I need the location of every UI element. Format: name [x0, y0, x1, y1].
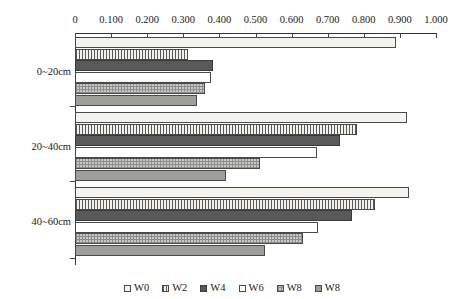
y-category-label-2: 40~60cm	[31, 216, 71, 228]
x-tick-mark-2	[147, 33, 148, 38]
legend-swatch-icon-3	[239, 285, 246, 292]
legend-label-4: W8	[287, 282, 302, 294]
bar-series-container	[75, 33, 436, 265]
bar-W0-0~20cm	[75, 37, 396, 48]
bar-W6-20~40cm	[75, 147, 317, 158]
x-tick-label-1: 0.100	[99, 14, 123, 26]
x-tick-mark-0	[75, 33, 76, 38]
x-tick-mark-6	[292, 33, 293, 38]
bar-W2-0~20cm	[75, 49, 188, 60]
x-tick-mark-4	[219, 33, 220, 38]
x-tick-mark-8	[364, 33, 365, 38]
category-separator-2	[70, 181, 76, 182]
y-category-label-0: 0~20cm	[37, 66, 71, 78]
category-separator-end	[70, 258, 76, 259]
legend-label-0: W0	[134, 282, 149, 294]
legend-item-1[interactable]: W2	[162, 282, 187, 294]
bar-W0-40~60cm	[75, 187, 409, 198]
bar-W6-40~60cm	[75, 222, 318, 233]
x-tick-label-5: 0.500	[244, 14, 268, 26]
x-tick-mark-10	[436, 33, 437, 38]
legend-item-2[interactable]: W4	[200, 282, 225, 294]
x-tick-label-10: 1.000	[424, 14, 448, 26]
legend-item-4[interactable]: W8	[277, 282, 302, 294]
legend-swatch-icon-5	[315, 285, 322, 292]
bar-W8-0~20cm	[75, 95, 197, 106]
y-axis-category-labels: 0~20cm20~40cm40~60cm	[0, 33, 71, 265]
legend-swatch-icon-1	[162, 285, 169, 292]
x-tick-mark-7	[328, 33, 329, 38]
bar-W2-40~60cm	[75, 199, 375, 210]
x-tick-mark-9	[400, 33, 401, 38]
chart-legend: W0W2W4W6W8W8	[0, 282, 464, 294]
legend-label-1: W2	[172, 282, 187, 294]
x-tick-mark-5	[256, 33, 257, 38]
x-tick-label-7: 0.700	[316, 14, 340, 26]
bar-W8-40~60cm	[75, 233, 303, 244]
x-tick-label-9: 0.900	[388, 14, 412, 26]
bar-chart: 00.1000.2000.3000.4000.5000.6000.7000.80…	[0, 0, 464, 299]
x-tick-label-6: 0.600	[280, 14, 304, 26]
bar-W8-0~20cm	[75, 83, 205, 94]
legend-item-5[interactable]: W8	[315, 282, 340, 294]
bar-W8-40~60cm	[75, 245, 265, 256]
x-tick-mark-3	[183, 33, 184, 38]
x-axis-tick-labels: 00.1000.2000.3000.4000.5000.6000.7000.80…	[0, 14, 464, 30]
category-separator-1	[70, 106, 76, 107]
x-tick-label-8: 0.800	[352, 14, 376, 26]
x-tick-label-3: 0.300	[171, 14, 195, 26]
bar-W4-0~20cm	[75, 60, 213, 71]
bar-W4-20~40cm	[75, 135, 340, 146]
legend-item-0[interactable]: W0	[124, 282, 149, 294]
x-tick-mark-1	[111, 33, 112, 38]
bar-W0-20~40cm	[75, 112, 407, 123]
bar-W8-20~40cm	[75, 158, 260, 169]
legend-swatch-icon-4	[277, 285, 284, 292]
legend-swatch-icon-2	[200, 285, 207, 292]
bar-W2-20~40cm	[75, 124, 357, 135]
legend-swatch-icon-0	[124, 285, 131, 292]
legend-label-3: W6	[249, 282, 264, 294]
x-tick-label-0: 0	[72, 14, 77, 26]
legend-label-5: W8	[325, 282, 340, 294]
x-tick-label-4: 0.400	[208, 14, 232, 26]
y-category-label-1: 20~40cm	[31, 141, 71, 153]
bar-W6-0~20cm	[75, 72, 211, 83]
legend-label-2: W4	[210, 282, 225, 294]
bar-W4-40~60cm	[75, 210, 352, 221]
legend-item-3[interactable]: W6	[239, 282, 264, 294]
x-tick-label-2: 0.200	[135, 14, 159, 26]
bar-W8-20~40cm	[75, 170, 226, 181]
